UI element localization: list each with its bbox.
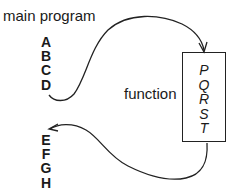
- flow-arrows: [0, 0, 235, 189]
- return-arrow-curve: [50, 125, 207, 180]
- call-arrow-curve: [49, 16, 204, 100]
